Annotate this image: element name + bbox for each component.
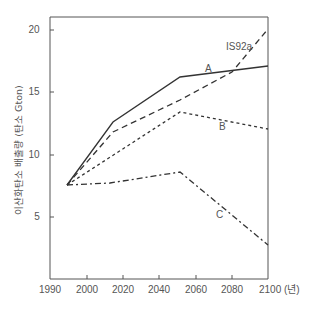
x-tick-2100: 2100 (년) bbox=[259, 284, 300, 295]
x-tick-2040: 2040 bbox=[148, 284, 171, 295]
series-A-line bbox=[67, 66, 268, 185]
y-axis-label: 이산화탄소 배출량 (탄소 Gton) bbox=[13, 85, 24, 214]
y-tick-20: 20 bbox=[28, 24, 40, 35]
x-tick-2020: 2020 bbox=[112, 284, 135, 295]
label-A: A bbox=[205, 63, 212, 74]
label-IS92a: IS92a bbox=[226, 41, 253, 52]
series-IS92a-line bbox=[67, 29, 268, 185]
emissions-chart: 20 15 10 5 이산화탄소 배출량 (탄소 Gton) 1990 2000… bbox=[0, 0, 309, 310]
y-tick-10: 10 bbox=[28, 149, 40, 160]
label-B: B bbox=[219, 121, 226, 132]
series-labels: A IS92a B C bbox=[205, 41, 253, 220]
y-tick-15: 15 bbox=[28, 86, 40, 97]
x-tick-2060: 2060 bbox=[185, 284, 208, 295]
series-C-line bbox=[67, 172, 268, 245]
y-axis: 20 15 10 5 이산화탄소 배출량 (탄소 Gton) bbox=[13, 24, 54, 222]
x-tick-2000: 2000 bbox=[76, 284, 99, 295]
series-lines bbox=[67, 29, 268, 245]
y-tick-5: 5 bbox=[34, 211, 40, 222]
x-axis: 1990 2000 2020 2040 2060 2080 2100 (년) bbox=[39, 275, 300, 295]
label-C: C bbox=[216, 209, 223, 220]
x-tick-1990: 1990 bbox=[39, 284, 62, 295]
x-tick-2080: 2080 bbox=[221, 284, 244, 295]
plot-frame bbox=[50, 17, 268, 279]
